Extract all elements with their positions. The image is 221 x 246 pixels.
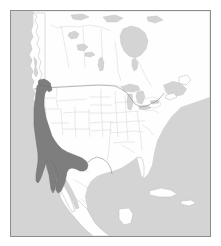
map-frame [10, 10, 211, 237]
range-map-figure [0, 0, 221, 246]
map-canvas [11, 11, 210, 236]
